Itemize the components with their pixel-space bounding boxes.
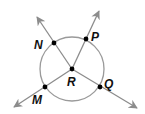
- point-p: [84, 37, 89, 42]
- label-m: M: [32, 93, 43, 107]
- point-q: [98, 85, 103, 90]
- label-p: P: [91, 30, 100, 44]
- point-m: [43, 85, 48, 90]
- circle-rays-diagram: RNPQM: [0, 0, 145, 114]
- label-q: Q: [104, 77, 114, 91]
- label-r: R: [67, 75, 76, 89]
- label-n: N: [34, 38, 43, 52]
- point-r: [70, 67, 75, 72]
- point-n: [52, 41, 57, 46]
